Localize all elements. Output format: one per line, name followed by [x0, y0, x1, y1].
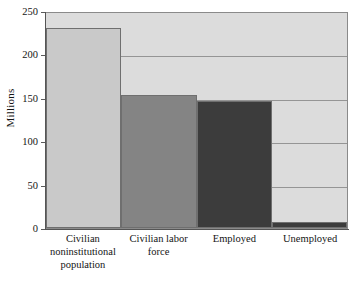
y-axis-tick-label: 200	[12, 50, 38, 60]
x-axis-label: Employed	[197, 232, 273, 284]
y-axis-tick-labels: 050100150200250	[12, 0, 38, 285]
x-axis-label-line: Employed	[198, 232, 272, 245]
x-axis-label: Civiliannoninstitutionalpopulation	[45, 232, 121, 284]
x-axis-label-line: force	[122, 245, 196, 258]
bar-chart: Millions 050100150200250 Civiliannoninst…	[0, 0, 360, 285]
x-axis-label-line: Unemployed	[273, 232, 347, 245]
y-axis-line	[45, 12, 46, 230]
y-axis-tick-label: 150	[12, 94, 38, 104]
x-axis-label: Civilian laborforce	[121, 232, 197, 284]
x-axis-label: Unemployed	[272, 232, 348, 284]
x-axis-line	[45, 229, 349, 230]
y-axis-tick-label: 50	[12, 181, 38, 191]
bar	[46, 28, 121, 228]
x-axis-label-line: noninstitutional	[46, 245, 120, 258]
bar-series	[46, 13, 347, 228]
y-axis-tick-label: 250	[12, 7, 38, 17]
y-axis-tick-label: 100	[12, 137, 38, 147]
plot-area	[45, 12, 348, 229]
y-axis-tick-label: 0	[12, 224, 38, 234]
x-axis-label-line: Civilian	[46, 232, 120, 245]
x-axis-category-labels: CiviliannoninstitutionalpopulationCivili…	[45, 232, 348, 284]
bar	[121, 95, 196, 228]
x-axis-label-line: Civilian labor	[122, 232, 196, 245]
bar	[197, 101, 272, 228]
bar	[272, 222, 347, 228]
x-axis-label-line: population	[46, 258, 120, 271]
